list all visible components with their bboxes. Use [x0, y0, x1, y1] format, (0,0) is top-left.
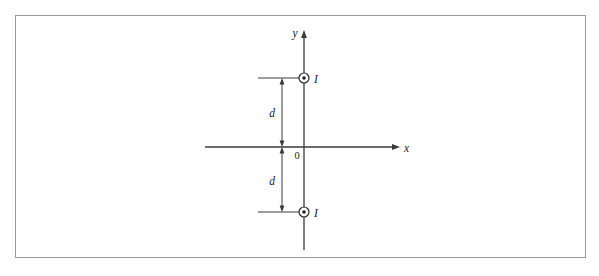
extension-lines — [258, 78, 300, 212]
dimension-upper — [280, 78, 285, 147]
figure-canvas: y x 0 d d I I — [0, 0, 599, 276]
y-axis-arrowhead — [301, 30, 307, 38]
dimension-label-lower: d — [269, 175, 275, 187]
x-axis-arrowhead — [392, 144, 400, 150]
x-axis-label: x — [403, 142, 410, 154]
current-symbol-lower — [299, 207, 309, 217]
dimension-arrowhead-lower-top — [280, 147, 285, 154]
dimension-label-upper: d — [269, 107, 275, 119]
dimension-arrowhead-lower-bottom — [280, 206, 285, 213]
dimension-arrowhead-upper-bottom — [280, 141, 285, 148]
current-dot-lower — [302, 210, 305, 213]
current-symbol-upper — [299, 73, 309, 83]
dimension-lower — [280, 147, 285, 212]
y-axis-label: y — [291, 27, 298, 40]
origin-label: 0 — [294, 150, 299, 161]
current-dot-upper — [302, 76, 305, 79]
dimension-arrowhead-upper-top — [280, 78, 285, 85]
current-label-lower: I — [313, 207, 319, 219]
physics-figure: y x 0 d d I I — [0, 0, 599, 276]
current-label-upper: I — [313, 73, 319, 85]
figure-border — [16, 16, 586, 258]
